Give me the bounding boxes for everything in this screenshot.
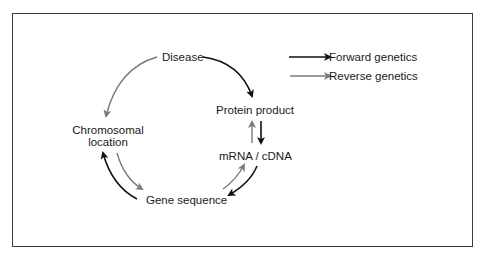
arrow-disease-to-chromosomal	[106, 57, 157, 116]
node-mrna-cdna: mRNA / cDNA	[219, 150, 292, 162]
node-chromosomal-line2: location	[72, 136, 144, 148]
arrow-gene-to-mrna	[223, 165, 244, 189]
node-gene-sequence: Gene sequence	[146, 194, 227, 206]
node-disease: Disease	[162, 51, 204, 63]
node-chromosomal-line1: Chromosomal	[72, 124, 144, 136]
arrow-disease-to-protein	[203, 57, 252, 96]
legend-reverse-label: Reverse genetics	[329, 70, 418, 82]
arrow-gene-to-chromosomal	[103, 153, 137, 199]
node-protein-product: Protein product	[216, 104, 294, 116]
node-chromosomal-location: Chromosomal location	[72, 124, 144, 148]
arrow-chromosomal-to-gene	[117, 153, 142, 189]
legend-forward-label: Forward genetics	[329, 51, 417, 63]
